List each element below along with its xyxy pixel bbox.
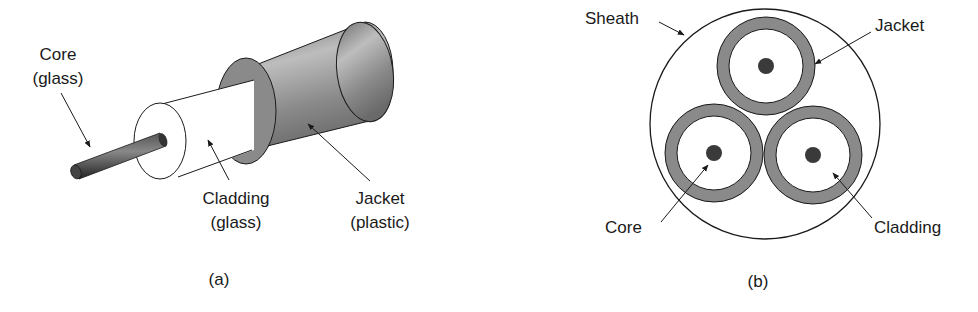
sheath-arrow (659, 22, 684, 35)
sheath-label: Sheath (585, 9, 639, 28)
cladding-label-b: Cladding (874, 218, 941, 237)
panel-a-single-fiber: Core (glass) Cladding (glass) Jacket (pl… (32, 19, 409, 289)
fiber-optic-diagram: Core (glass) Cladding (glass) Jacket (pl… (0, 0, 978, 312)
panel-a-caption: (a) (209, 270, 230, 289)
cladding-sublabel: (glass) (210, 213, 261, 232)
jacket-label-b: Jacket (875, 16, 924, 35)
cladding-cylinder (134, 80, 254, 179)
panel-b-caption: (b) (748, 272, 769, 291)
jacket-sublabel: (plastic) (350, 213, 410, 232)
panel-b-cable-cross-section: Sheath Jacket Core Cladding (b) (585, 9, 941, 291)
jacket-arrow (308, 124, 370, 181)
core-label-b: Core (605, 218, 642, 237)
core-arrow (61, 93, 90, 147)
core-label: Core (40, 45, 77, 64)
cladding-label: Cladding (202, 189, 269, 208)
core-sublabel: (glass) (32, 69, 83, 88)
jacket-label: Jacket (355, 189, 404, 208)
